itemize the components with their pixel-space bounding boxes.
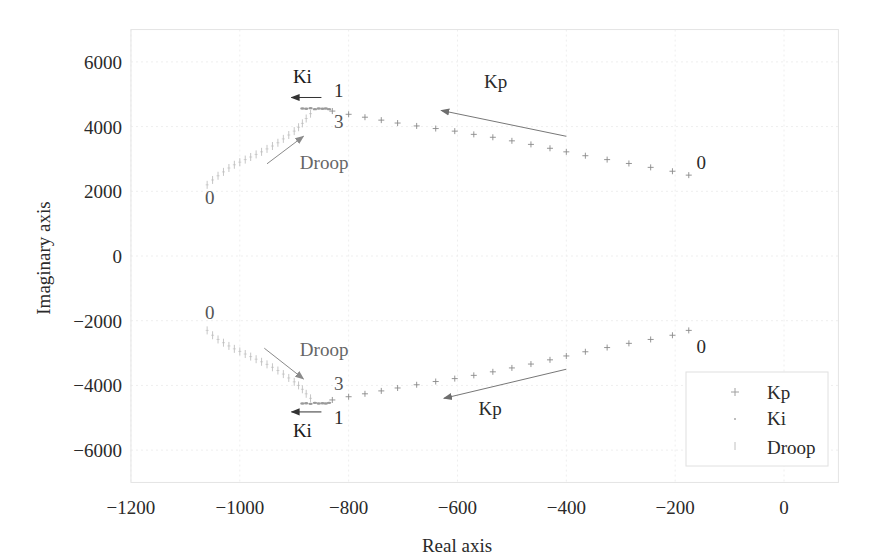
dot-marker-icon: [304, 108, 308, 110]
y-tick-label: −4000: [73, 375, 122, 396]
dot-marker-icon: [308, 403, 312, 405]
dot-marker-icon: [304, 402, 308, 404]
x-tick-label: 0: [779, 497, 789, 518]
x-tick-label: −1000: [215, 497, 264, 518]
x-tick-label: −600: [438, 497, 477, 518]
data-series: [206, 107, 692, 405]
annotation-label: 0: [697, 336, 707, 357]
dot-marker-icon: [327, 108, 331, 110]
dot-marker-icon: [300, 107, 304, 109]
legend-label-droop: Droop: [767, 437, 816, 458]
x-tick-label: −200: [656, 497, 695, 518]
annotation-label: Droop: [300, 339, 349, 360]
annotation-label: Kp: [479, 398, 502, 419]
dot-marker-icon: [317, 402, 321, 404]
legend: Kp Ki Droop: [686, 372, 828, 466]
dot-marker-icon: [313, 402, 317, 404]
dot-marker-icon: [300, 402, 304, 404]
y-axis-ticks: 6000400020000−2000−4000−6000: [73, 52, 122, 461]
x-tick-label: −1200: [107, 497, 156, 518]
y-tick-label: −2000: [73, 311, 122, 332]
y-tick-label: 4000: [84, 117, 122, 138]
dot-marker-icon: [327, 402, 331, 404]
dot-marker-icon: [734, 418, 736, 420]
dot-marker-icon: [308, 107, 312, 109]
y-tick-label: 0: [113, 246, 123, 267]
annotation-label: 1: [334, 80, 344, 101]
legend-label-kp: Kp: [767, 382, 790, 403]
annotation-label: 3: [334, 111, 344, 132]
direction-arrows: [264, 97, 566, 411]
dot-marker-icon: [317, 107, 321, 109]
x-tick-label: −400: [547, 497, 586, 518]
arrow-kp-icon: [441, 110, 566, 136]
x-axis-title: Real axis: [422, 535, 492, 556]
gain-annotations: Ki13Droop0Kp00Droop31KiKp0: [205, 66, 706, 441]
arrow-kp-icon: [444, 369, 566, 398]
arrow-droop-icon: [267, 136, 303, 163]
annotation-label: Ki: [293, 66, 312, 87]
annotation-label: 3: [334, 373, 344, 394]
y-tick-label: 2000: [84, 181, 122, 202]
annotation-label: Ki: [293, 420, 312, 441]
annotation-label: 1: [334, 407, 344, 428]
annotation-label: 0: [205, 302, 215, 323]
x-tick-label: −800: [329, 497, 368, 518]
annotation-label: 0: [697, 152, 707, 173]
annotation-label: 0: [205, 187, 215, 208]
root-locus-chart: −1200−1000−800−600−400−2000 600040002000…: [0, 0, 870, 559]
y-tick-label: 6000: [84, 52, 122, 73]
legend-label-ki: Ki: [767, 408, 786, 429]
x-axis-ticks: −1200−1000−800−600−400−2000: [107, 497, 789, 518]
y-axis-title: Imaginary axis: [33, 201, 54, 314]
annotation-label: Droop: [300, 152, 349, 173]
y-tick-label: −6000: [73, 440, 122, 461]
annotation-label: Kp: [484, 71, 507, 92]
dot-marker-icon: [313, 108, 317, 110]
